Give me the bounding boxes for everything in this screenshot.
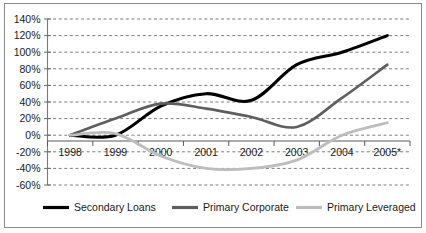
legend-label: Primary Corporate xyxy=(203,201,289,213)
x-tick-marks xyxy=(48,141,411,146)
x-tick-label: 2002 xyxy=(240,146,264,158)
y-tick-label: 80% xyxy=(19,63,40,75)
line-chart: 140%120%100%80%60%40%20%0%-20%-40%-60% 1… xyxy=(0,0,426,233)
y-tick-label: 120% xyxy=(14,29,41,41)
y-tick-label: 60% xyxy=(19,79,40,91)
x-tick-label: 1998 xyxy=(58,146,82,158)
chart-legend: Secondary LoansPrimary CorporatePrimary … xyxy=(43,201,416,213)
x-tick-label: 2005* xyxy=(374,146,401,158)
y-axis-tick-labels: 140%120%100%80%60%40%20%0%-20%-40%-60% xyxy=(14,13,41,191)
x-tick-label: 2004 xyxy=(330,146,354,158)
x-axis-tick-labels: 19981999200020012002200320042005* xyxy=(58,146,401,158)
chart-figure: 140%120%100%80%60%40%20%0%-20%-40%-60% 1… xyxy=(0,0,426,233)
y-tick-label: -60% xyxy=(16,179,41,191)
y-tick-label: 0% xyxy=(25,129,40,141)
y-tick-label: 20% xyxy=(19,112,40,124)
gridlines xyxy=(48,19,411,185)
y-tick-label: 40% xyxy=(19,96,40,108)
y-tick-label: 140% xyxy=(14,13,41,25)
legend-label: Secondary Loans xyxy=(74,201,156,213)
x-tick-label: 2001 xyxy=(194,146,218,158)
y-tick-label: 100% xyxy=(14,46,41,58)
x-tick-label: 1999 xyxy=(104,146,128,158)
y-tick-label: -40% xyxy=(16,162,41,174)
legend-label: Primary Leveraged xyxy=(327,201,416,213)
series-line-secondary-loans xyxy=(70,36,387,138)
y-tick-label: -20% xyxy=(16,146,41,158)
